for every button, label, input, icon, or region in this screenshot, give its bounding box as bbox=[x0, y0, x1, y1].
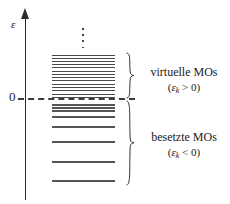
energy-axis-line bbox=[25, 14, 26, 200]
label-virtual-condition: (εk > 0) bbox=[140, 81, 228, 95]
virtual-mo-level bbox=[52, 61, 115, 62]
virtual-mo-level bbox=[52, 84, 115, 85]
occupied-mo-level bbox=[52, 126, 115, 128]
virtual-mo-level bbox=[52, 55, 115, 56]
label-group-occupied: besetzte MOs (εk < 0) bbox=[140, 130, 228, 161]
brace-occupied bbox=[126, 100, 135, 186]
energy-axis-label: ε bbox=[11, 19, 15, 30]
virtual-mo-level bbox=[52, 90, 115, 91]
label-occupied-condition: (εk < 0) bbox=[140, 146, 228, 160]
brace-virtual bbox=[126, 52, 135, 99]
virtual-mo-level bbox=[52, 80, 115, 81]
mo-energy-level-diagram: ε 0 virtuelle MOs (εk > 0) besetzte MOs … bbox=[0, 0, 230, 204]
vertical-ellipsis-icon bbox=[82, 28, 83, 53]
label-virtual-title: virtuelle MOs bbox=[140, 65, 228, 79]
occupied-mo-level bbox=[52, 110, 115, 112]
virtual-mo-level bbox=[52, 77, 115, 78]
virtual-mo-level bbox=[52, 58, 115, 59]
virtual-mo-level bbox=[52, 97, 115, 98]
virtual-mo-level bbox=[52, 74, 115, 75]
virtual-mo-level bbox=[52, 64, 115, 65]
occupied-mo-level bbox=[52, 141, 115, 143]
label-group-virtual: virtuelle MOs (εk > 0) bbox=[140, 65, 228, 96]
label-occupied-title: besetzte MOs bbox=[140, 130, 228, 144]
occupied-mo-level bbox=[52, 161, 115, 163]
occupied-mo-level bbox=[52, 116, 115, 118]
virtual-mo-level bbox=[52, 67, 115, 68]
virtual-mo-level bbox=[52, 94, 115, 95]
occupied-mo-level bbox=[52, 107, 115, 109]
occupied-mo-level bbox=[52, 180, 115, 182]
zero-energy-dashed-line bbox=[18, 98, 135, 100]
virtual-mo-level bbox=[52, 71, 115, 72]
zero-tick-label: 0 bbox=[9, 90, 16, 103]
virtual-mo-level bbox=[52, 87, 115, 88]
occupied-mo-level bbox=[52, 104, 115, 106]
